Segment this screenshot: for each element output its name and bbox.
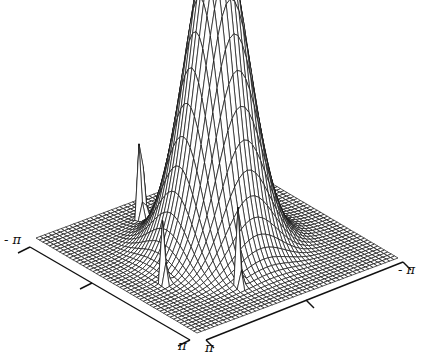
y-axis-min-label: - π [398, 262, 415, 277]
y-axis-max-label: π [205, 340, 214, 355]
surface-plot [0, 0, 426, 359]
x-axis-min-label: - π [4, 232, 21, 247]
x-axis-max-label: π [178, 338, 187, 353]
surface-mesh [36, 0, 398, 333]
